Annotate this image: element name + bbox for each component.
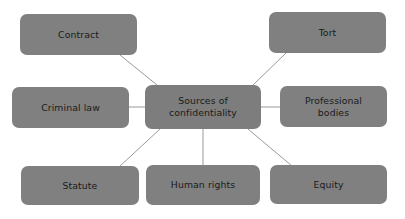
node-statute-label: Statute xyxy=(63,180,98,192)
node-professional-bodies[interactable]: Professional bodies xyxy=(280,86,387,127)
node-equity[interactable]: Equity xyxy=(270,165,387,204)
node-tort[interactable]: Tort xyxy=(269,12,386,53)
node-center-label: Sources of confidentiality xyxy=(169,95,237,119)
node-criminal-law[interactable]: Criminal law xyxy=(12,87,129,128)
connector-center-to-tort xyxy=(252,53,286,86)
node-professional-bodies-label: Professional bodies xyxy=(305,95,362,119)
node-contract[interactable]: Contract xyxy=(20,14,137,55)
node-human-rights[interactable]: Human rights xyxy=(146,165,260,205)
concept-map-diagram: Sources of confidentiality Contract Tort… xyxy=(0,0,405,219)
connector-center-to-contract xyxy=(120,55,157,85)
node-contract-label: Contract xyxy=(58,29,99,41)
node-criminal-law-label: Criminal law xyxy=(41,102,100,114)
node-human-rights-label: Human rights xyxy=(171,179,235,191)
connector-center-to-statute xyxy=(119,129,160,167)
node-tort-label: Tort xyxy=(319,27,337,39)
node-center-sources-of-confidentiality[interactable]: Sources of confidentiality xyxy=(145,85,261,129)
connector-center-to-equity xyxy=(248,129,292,166)
node-statute[interactable]: Statute xyxy=(21,166,139,205)
node-equity-label: Equity xyxy=(314,179,344,191)
